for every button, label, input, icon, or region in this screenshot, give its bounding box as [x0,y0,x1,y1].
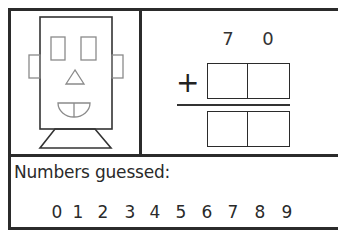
digit-6[interactable]: 6 [202,201,213,223]
robot-neck-icon [40,129,111,148]
digit-3[interactable]: 3 [125,201,136,223]
addend-ones-box[interactable] [247,63,290,99]
answer-ones-box[interactable] [247,111,290,147]
numbers-guessed-label: Numbers guessed: [14,161,170,183]
guessed-digits-row: 0 1 2 3 4 5 6 7 8 9 [0,201,323,225]
robot-left-eye-icon [51,37,65,60]
digit-4[interactable]: 4 [150,201,161,223]
digit-2[interactable]: 2 [98,201,109,223]
plus-sign: + [176,69,199,97]
robot-right-eye-icon [81,37,96,60]
digit-0[interactable]: 0 [52,201,63,223]
addend-tens-digit: 7 [222,28,233,50]
robot-right-ear-icon [112,55,123,78]
digit-8[interactable]: 8 [255,201,266,223]
digit-5[interactable]: 5 [176,201,187,223]
digit-7[interactable]: 7 [228,201,239,223]
answer-tens-box[interactable] [207,111,249,147]
robot-left-ear-icon [29,55,40,78]
digit-9[interactable]: 9 [282,201,293,223]
robot-head [40,17,112,129]
addend-tens-box[interactable] [207,63,249,99]
robot-nose-icon [66,70,84,84]
addend-ones-digit: 0 [262,28,273,50]
digit-1[interactable]: 1 [73,201,84,223]
